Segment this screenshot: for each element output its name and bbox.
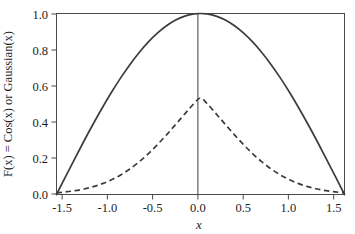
y-tick-label: 0.8 (32, 44, 48, 58)
chart-figure: 1.0 0.8 0.6 0.4 0.2 0.0 -1.5 -1.0 -0.5 0… (0, 0, 355, 234)
chart-canvas: 1.0 0.8 0.6 0.4 0.2 0.0 -1.5 -1.0 -0.5 0… (0, 0, 355, 234)
plot-frame (57, 14, 345, 195)
series-cos-curve (57, 14, 345, 195)
x-axis-ticks (62, 195, 334, 200)
x-tick-label: -1.0 (98, 201, 118, 215)
y-axis-title: F(x) = Cos(x) or Gaussian(x) (1, 31, 15, 177)
y-tick-label: 0.6 (32, 80, 48, 94)
y-tick-label: 0.0 (32, 188, 48, 202)
y-tick-label: 0.4 (32, 116, 48, 130)
x-tick-label: 0.0 (190, 201, 206, 215)
x-tick-label: 1.0 (281, 201, 297, 215)
x-tick-label: 1.5 (326, 201, 342, 215)
x-tick-label: -1.5 (52, 201, 72, 215)
x-tick-label: -0.5 (143, 201, 163, 215)
y-tick-label: 0.2 (32, 152, 48, 166)
x-axis-title: x (195, 217, 202, 232)
y-axis-ticks (52, 14, 57, 194)
y-tick-label: 1.0 (32, 8, 48, 22)
x-tick-label: 0.5 (235, 201, 251, 215)
